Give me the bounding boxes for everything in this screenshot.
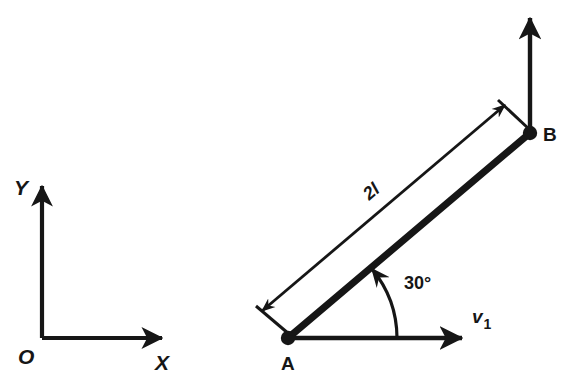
angle-arc [372,269,397,338]
caption-fragment [8,371,198,382]
v1-label-subscript: 1 [484,316,492,332]
dim-extension-b [498,100,529,129]
rod-length-label: 2l [358,178,384,204]
rod-ab [288,133,530,338]
v1-label: v1 [472,306,492,332]
v1-label-symbol: v [472,306,484,327]
point-b-label: B [543,124,557,145]
angle-label: 30° [404,273,431,293]
angle-indicator-30: 30° [372,269,431,338]
dim-line-2l [262,105,505,311]
origin-label: O [18,345,34,368]
point-a-label: A [281,353,295,374]
dimension-2l: 2l [256,100,529,334]
figure-canvas: Y X O A B v1 30° [0,0,576,382]
y-axis-label: Y [14,176,30,199]
mechanics-diagram: Y X O A B v1 30° [0,0,576,382]
coordinate-axes: Y X O [14,176,171,374]
dim-extension-a [256,306,289,334]
